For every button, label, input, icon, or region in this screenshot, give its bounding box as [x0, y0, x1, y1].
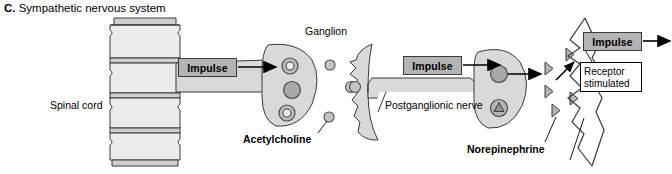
- figure-panel: C. Sympathetic nervous system Spinal cor…: [0, 0, 672, 174]
- page-title: C. Sympathetic nervous system: [4, 3, 166, 15]
- impulse-box-preganglionic: Impulse: [178, 58, 237, 77]
- label-norepinephrine: Norepinephrine: [467, 144, 545, 155]
- ganglion-cell-body-graphic: [262, 44, 317, 126]
- spinal-cord-graphic: [110, 18, 180, 166]
- label-spinal-cord: Spinal cord: [50, 100, 103, 111]
- impulse-box-target: Impulse: [583, 32, 642, 51]
- norepinephrine-vesicles-graphic: [545, 48, 584, 160]
- panel-letter: C.: [4, 2, 16, 14]
- panel-title-text: Sympathetic nervous system: [16, 2, 166, 14]
- label-acetylcholine: Acetylcholine: [243, 134, 311, 145]
- acetylcholine-vesicles-graphic: [318, 60, 357, 133]
- label-postganglionic-nerve: Postganglionic nerve: [385, 100, 482, 111]
- receptor-stimulated-box: Receptor stimulated: [580, 62, 642, 92]
- nerve-terminal-bulb-graphic: [474, 50, 541, 129]
- receptor-line-2: stimulated: [584, 78, 641, 90]
- impulse-box-postganglionic: Impulse: [403, 56, 462, 75]
- receptor-line-1: Receptor: [584, 66, 641, 78]
- label-ganglion: Ganglion: [305, 26, 347, 37]
